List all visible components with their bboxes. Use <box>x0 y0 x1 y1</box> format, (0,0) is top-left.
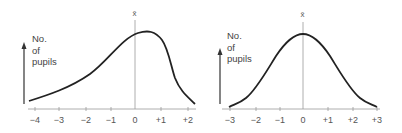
normal-distribution-chart: No. of pupils x̄ −3 −2 −1 0 +1 +2 +3 <box>218 10 383 125</box>
svg-text:+1: +1 <box>323 115 333 125</box>
x-axis-tick-labels: −4 −3 −2 −1 0 +1 +2 <box>30 115 193 125</box>
y-axis-label-line3: pupils <box>227 53 252 64</box>
mean-label: x̄ <box>300 10 304 19</box>
y-axis-label-line3: pupils <box>32 56 57 67</box>
svg-text:−3: −3 <box>225 115 235 125</box>
svg-text:−1: −1 <box>106 115 116 125</box>
svg-text:−3: −3 <box>54 115 64 125</box>
mean-label: x̄ <box>132 9 136 18</box>
arrowhead-icon <box>22 42 27 49</box>
skewed-distribution-chart: No. of pupils x̄ −4 −3 −2 −1 0 +1 +2 <box>22 9 197 125</box>
svg-text:−2: −2 <box>81 115 91 125</box>
svg-text:0: 0 <box>132 115 137 125</box>
x-axis-tick-labels: −3 −2 −1 0 +1 +2 +3 <box>225 115 382 125</box>
svg-text:−4: −4 <box>30 115 40 125</box>
svg-text:+1: +1 <box>156 115 166 125</box>
y-axis-label-line2: of <box>227 42 235 53</box>
svg-text:+3: +3 <box>372 115 382 125</box>
arrowhead-icon <box>218 48 223 55</box>
y-axis-label-line2: of <box>32 45 40 56</box>
charts-canvas: No. of pupils x̄ −4 −3 −2 −1 0 +1 +2 <box>0 0 402 133</box>
svg-text:+2: +2 <box>348 115 358 125</box>
distribution-curve <box>29 31 195 104</box>
svg-text:0: 0 <box>300 115 305 125</box>
svg-text:−1: −1 <box>275 115 285 125</box>
y-axis-label-line1: No. <box>227 30 242 41</box>
svg-text:−2: −2 <box>251 115 261 125</box>
y-axis-label-line1: No. <box>32 33 47 44</box>
svg-text:+2: +2 <box>183 115 193 125</box>
